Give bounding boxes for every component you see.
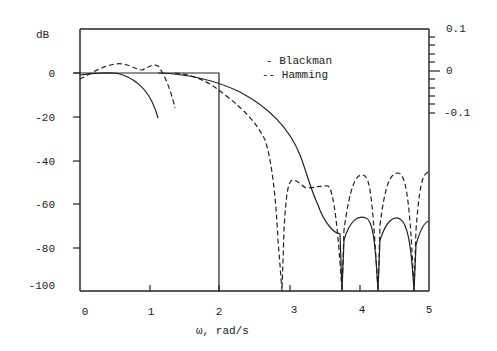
hamming-curve <box>175 73 429 291</box>
x-tick-label: 5 <box>426 304 433 316</box>
left-y-ticks <box>73 73 80 248</box>
chart: dB 0 -20 -40 -60 -80 -100 0.1 0 -0.1 0 1… <box>0 0 497 351</box>
x-tick-label: 0 <box>82 306 89 318</box>
right-y-ticks <box>429 37 440 113</box>
x-tick-label: 2 <box>216 306 223 318</box>
x-tick-label: 1 <box>148 306 155 318</box>
y-tick-label: -80 <box>35 243 55 255</box>
x-tick-label: 4 <box>359 304 366 316</box>
y-tick-label: -20 <box>35 112 55 124</box>
legend-blackman: - Blackman <box>266 55 332 67</box>
y-tick-label: -100 <box>29 280 55 292</box>
x-ticks <box>150 285 360 291</box>
legend-hamming: -- Hamming <box>262 69 328 81</box>
y-tick-label: -60 <box>35 199 55 211</box>
right-tick-label: -0.1 <box>444 107 471 119</box>
x-tick-label: 3 <box>291 304 298 316</box>
right-tick-label: 0 <box>446 65 453 77</box>
hamming-passband-curve <box>80 64 175 108</box>
blackman-passband-curve <box>80 73 158 118</box>
y-axis-label: dB <box>36 29 50 41</box>
right-tick-label: 0.1 <box>446 23 466 35</box>
plot-frame <box>80 29 429 291</box>
y-tick-label: -40 <box>35 156 55 168</box>
y-tick-label: 0 <box>48 68 55 80</box>
legend: - Blackman -- Hamming <box>262 55 332 81</box>
ideal-filter-line <box>74 73 219 291</box>
x-axis-label: ω, rad/s <box>196 325 249 337</box>
